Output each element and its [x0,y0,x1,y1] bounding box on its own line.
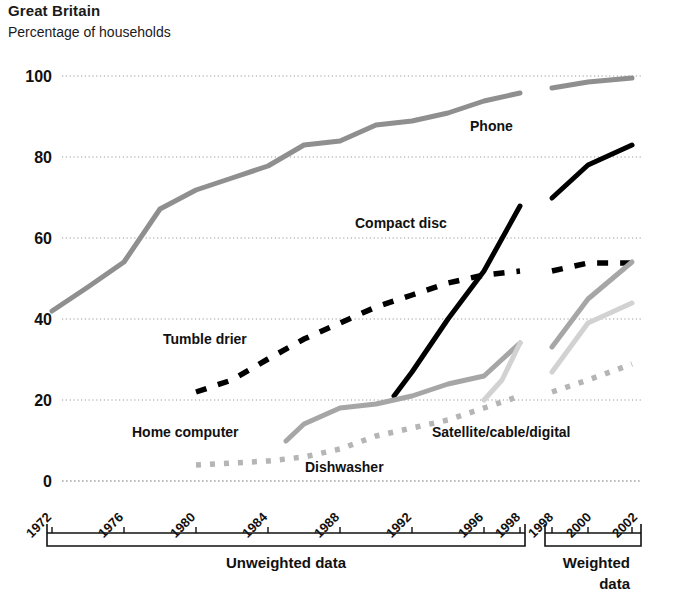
annotation-satellite-cable-digital: Satellite/cable/digital [432,424,571,440]
annotation-dishwasher: Dishwasher [305,459,384,475]
x-tick-1996: 1996 [455,510,486,541]
x-axis [47,524,641,533]
bracket-label-weighted-line1: Weighted [563,554,630,571]
series-phone-weighted [552,78,632,88]
series-dishwasher [196,364,632,465]
x-axis-tick-labels: 1972 1976 1980 1984 1988 1992 1996 1998 … [23,509,640,541]
series-compact-disc-unweighted [394,206,520,396]
annotation-home-computer: Home computer [132,424,239,440]
series-satellite-cable-digital [484,303,632,400]
x-tick-1992: 1992 [383,510,414,541]
series-phone-unweighted [52,93,520,311]
x-tick-1972: 1972 [23,510,54,541]
line-chart-svg: 100 80 60 40 20 0 [0,0,673,608]
series-dishwasher-weighted [552,364,632,392]
x-tick-1980: 1980 [167,510,198,541]
x-tick-2002: 2002 [609,510,640,541]
annotation-compact-disc: Compact disc [355,215,447,231]
bracket-weighted [545,533,641,546]
y-tick-80: 80 [34,149,52,166]
y-tick-20: 20 [34,392,52,409]
y-tick-60: 60 [34,230,52,247]
series-home-computer-weighted [552,262,632,347]
annotation-phone: Phone [470,118,513,134]
bracket-label-unweighted: Unweighted data [226,554,347,571]
y-axis-ticks: 100 80 60 40 20 0 [25,68,52,490]
y-tick-0: 0 [43,473,52,490]
panel-brackets: Unweighted data Weighted data [47,533,641,592]
series-annotations: Phone Compact disc Tumble drier Home com… [132,118,571,475]
y-tick-40: 40 [34,311,52,328]
series-phone [52,78,632,311]
x-tick-1998-unweighted: 1998 [492,510,523,541]
series-satellite-cable-digital-weighted [552,303,632,372]
x-tick-1998-weighted: 1998 [525,510,556,541]
bracket-label-weighted-line2: data [599,575,631,592]
chart-container: Great Britain Percentage of households 1… [0,0,673,608]
x-tick-1984: 1984 [239,509,271,541]
annotation-tumble-drier: Tumble drier [163,331,247,347]
x-tick-2000: 2000 [563,510,594,541]
bracket-unweighted [47,533,525,546]
y-tick-100: 100 [25,68,52,85]
x-tick-1976: 1976 [95,510,126,541]
x-tick-1988: 1988 [311,510,342,541]
series-compact-disc-weighted [552,145,632,198]
